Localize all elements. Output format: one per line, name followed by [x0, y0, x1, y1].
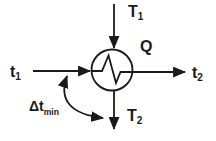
min-temp-diff-label: Δtmin — [29, 98, 59, 117]
heat-duty-label: Q — [140, 38, 152, 55]
hot-outlet-label: T2 — [127, 107, 143, 126]
hot-inlet-label: T1 — [128, 3, 144, 22]
min-temp-diff-label-main: Δt — [29, 98, 44, 114]
min-temp-diff-arc-arrow — [64, 76, 103, 118]
diagram-canvas: T1 Q t1 t2 T2 Δtmin — [0, 0, 216, 141]
min-temp-diff-label-sub: min — [44, 107, 59, 117]
hot-inlet-label-main: T — [128, 3, 138, 20]
heat-exchanger-diagram: T1 Q t1 t2 T2 Δtmin — [0, 0, 216, 141]
hot-inlet-label-sub: 1 — [138, 11, 144, 22]
cold-outlet-label: t2 — [192, 64, 203, 83]
cold-inlet-label-sub: 1 — [15, 71, 21, 82]
cold-inlet-label: t1 — [10, 63, 21, 82]
hot-outlet-label-sub: 2 — [137, 115, 143, 126]
hot-outlet-label-main: T — [127, 107, 137, 124]
heat-exchanger-zigzag-icon — [92, 56, 133, 84]
cold-outlet-label-sub: 2 — [197, 72, 203, 83]
